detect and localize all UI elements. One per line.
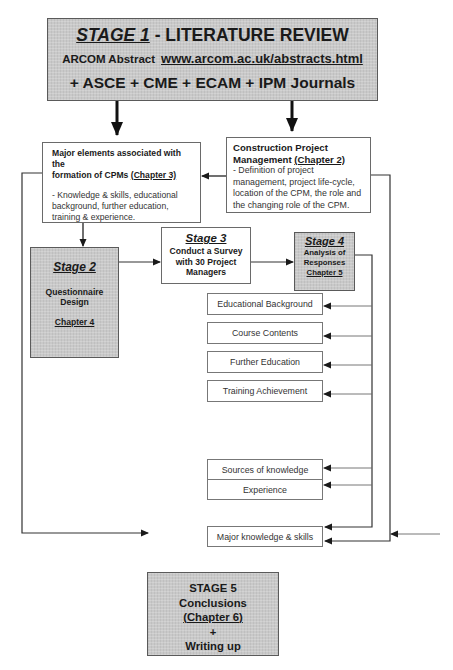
- major-elements-chapter: (Chapter 3): [131, 170, 176, 180]
- construction-pm-description: - Definition of project management, proj…: [233, 165, 366, 211]
- stage5-conclusions-box: STAGE 5 Conclusions (Chapter 6) + Writin…: [147, 572, 279, 656]
- stage2-chapter: Chapter 4: [31, 317, 118, 327]
- stage1-literature-review-box: STAGE 1 - LITERATURE REVIEW ARCOM Abstra…: [47, 18, 378, 101]
- stage1-label: STAGE 1: [76, 25, 150, 45]
- stage1-journals: + ASCE + CME + ECAM + IPM Journals: [48, 74, 377, 92]
- arcom-abstract-label: ARCOM Abstract: [62, 53, 155, 65]
- stage4-analysis-box: Stage 4 Analysis of Responses Chapter 5: [294, 232, 355, 291]
- item-major-knowledge-skills: Major knowledge & skills: [207, 526, 323, 547]
- construction-pm-heading-line1: Construction Project: [233, 142, 328, 153]
- stage3-line2: with 30 Project: [162, 257, 250, 268]
- stage3-label: Stage 3: [162, 232, 250, 245]
- item-sources-of-knowledge: Sources of knowledge: [207, 459, 323, 480]
- stage2-line1: Questionnaire: [31, 287, 118, 297]
- stage3-line1: Conduct a Survey: [162, 246, 250, 257]
- stage5-chapter: (Chapter 6): [148, 610, 278, 625]
- stage5-plus: +: [148, 625, 278, 640]
- stage1-source: ARCOM Abstractwww.arcom.ac.uk/abstracts.…: [48, 51, 377, 66]
- stage3-line3: Managers: [162, 267, 250, 278]
- stage2-label: Stage 2: [31, 260, 118, 274]
- stage4-line2: Responses: [295, 258, 354, 268]
- construction-pm-chapter: (Chapter 2): [294, 154, 345, 165]
- stage2-line2: Design: [31, 297, 118, 307]
- arcom-abstract-url: www.arcom.ac.uk/abstracts.html: [161, 51, 363, 66]
- stage2-questionnaire-box: Stage 2 Questionnaire Design Chapter 4: [30, 247, 119, 358]
- major-elements-description: - Knowledge & skills, educational backgr…: [52, 190, 196, 223]
- item-training-achievement: Training Achievement: [207, 380, 323, 402]
- construction-pm-heading-line2: Management: [233, 154, 294, 165]
- item-further-education: Further Education: [207, 351, 323, 373]
- stage4-label: Stage 4: [295, 235, 354, 248]
- construction-pm-heading: Construction Project Management (Chapter…: [233, 142, 366, 165]
- major-elements-heading-line1: Major elements associated with the: [52, 148, 181, 169]
- major-elements-heading: Major elements associated with the forma…: [52, 148, 196, 181]
- construction-pm-box: Construction Project Management (Chapter…: [226, 137, 371, 213]
- stage4-output-bus: [325, 255, 372, 527]
- stage5-line2: Writing up: [148, 639, 278, 654]
- item-educational-background: Educational Background: [207, 293, 323, 315]
- major-elements-heading-line2: formation of CPMs: [52, 170, 131, 180]
- stage4-line1: Analysis of: [295, 248, 354, 258]
- item-experience: Experience: [207, 479, 323, 500]
- stage1-title-text: - LITERATURE REVIEW: [150, 25, 349, 45]
- major-elements-box: Major elements associated with the forma…: [42, 142, 201, 223]
- arrow-cpm-right-loop: [325, 175, 390, 541]
- item-course-contents: Course Contents: [207, 322, 323, 344]
- stage5-label: STAGE 5: [148, 581, 278, 596]
- stage4-chapter: Chapter 5: [295, 268, 354, 278]
- stage5-line1: Conclusions: [148, 596, 278, 611]
- stage1-title: STAGE 1 - LITERATURE REVIEW: [48, 25, 377, 46]
- stage3-survey-box: Stage 3 Conduct a Survey with 30 Project…: [161, 227, 251, 284]
